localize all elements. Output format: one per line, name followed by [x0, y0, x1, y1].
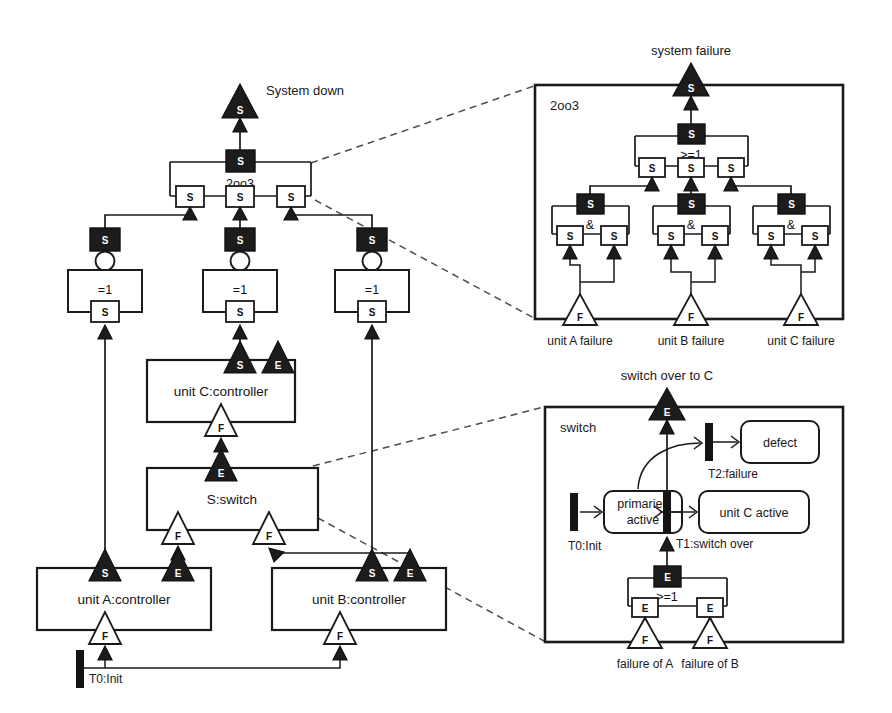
state-label: unit C active — [720, 506, 789, 520]
port-label: S — [237, 307, 244, 318]
port-label: F — [102, 631, 108, 642]
gate-symbol-label: =1 — [365, 283, 379, 297]
port-label: S — [728, 163, 735, 174]
basic-event-label: unit C failure — [767, 334, 835, 348]
gate-symbol-label: >=1 — [656, 590, 678, 604]
inverter-bubble-icon — [231, 252, 250, 271]
port-label: S — [788, 199, 795, 210]
component-unit-a: unit A:controller S E F — [37, 549, 211, 644]
port-label: E — [175, 568, 182, 579]
gate-symbol-label: & — [787, 218, 796, 232]
basic-event-label: unit A failure — [547, 334, 613, 348]
port-label: S — [369, 568, 376, 579]
wire-primaries-to-t2 — [638, 437, 702, 489]
port-label: S — [611, 231, 618, 242]
port-label: F — [707, 635, 713, 646]
port-label: S — [668, 231, 675, 242]
main-voter-gate-2oo3: S 2oo3 S S S — [170, 150, 311, 207]
port-label: E — [664, 407, 671, 418]
top-event-label: system failure — [651, 43, 731, 58]
inset-and-gate-2: S & S S — [653, 194, 730, 245]
wire-topgate-to-topevent — [233, 118, 247, 152]
port-label: F — [175, 531, 181, 542]
main-top-event: S System down — [222, 83, 344, 118]
transition-bar — [663, 492, 671, 532]
diagram-canvas: S System down S 2oo3 S S S — [0, 0, 892, 713]
port-label: F — [337, 631, 343, 642]
panel-title: switch — [560, 420, 596, 435]
basic-event-label: unit B failure — [658, 334, 725, 348]
port-label: S — [768, 231, 775, 242]
port-label: S — [102, 568, 109, 579]
port-label: S — [237, 235, 244, 246]
inset-or-gate: S >=1 S S S — [635, 124, 748, 177]
state-label-line1: primaries — [617, 497, 668, 511]
inset-basic-event-a: F unit A failure — [547, 294, 613, 348]
port-label: F — [798, 312, 804, 323]
basic-event-label: failure of A — [617, 657, 674, 671]
main-xor-gate-a: S =1 S — [68, 228, 142, 322]
main-xor-gate-c: S =1 S — [203, 228, 277, 322]
gate-symbol-label: =1 — [98, 283, 112, 297]
port-label: S — [587, 199, 594, 210]
inverter-bubble-icon — [363, 252, 382, 271]
wire-t2-to-defect — [713, 436, 739, 448]
port-label: S — [812, 231, 819, 242]
port-label: S — [688, 129, 695, 140]
port-label: E — [275, 360, 282, 371]
component-unit-c: unit C:controller S E F — [147, 341, 295, 436]
main-xor-gate-b: S =1 S — [335, 228, 409, 322]
wires-and-to-or — [590, 177, 791, 195]
switch-basic-event-b: F failure of B — [681, 618, 738, 671]
port-label: F — [688, 312, 694, 323]
port-label: S — [288, 192, 295, 203]
port-label: S — [688, 199, 695, 210]
switch-basic-event-a: F failure of A — [617, 618, 674, 671]
transition-label: T0:Init — [89, 672, 123, 686]
component-name: S:switch — [207, 492, 257, 507]
port-label: S — [688, 83, 695, 94]
transition-bar — [705, 423, 713, 461]
inset-and-gate-1: S & S S — [552, 194, 629, 245]
transition-label: T0:Init — [568, 539, 602, 553]
port-label: S — [237, 105, 244, 116]
transition-label: T1:switch over — [676, 537, 753, 551]
port-label: E — [707, 603, 714, 614]
port-label: S — [102, 235, 109, 246]
state-label: defect — [763, 436, 798, 450]
component-name: unit C:controller — [174, 384, 269, 399]
inset-switch-panel: switch switch over to C E T0:Init primar… — [545, 368, 843, 671]
wires-basicevents-to-and — [563, 245, 822, 300]
state-unit-c-active: unit C active — [699, 491, 809, 533]
wire-orgate-to-t1 — [660, 537, 674, 568]
transition-label: T2:failure — [708, 467, 758, 481]
transition-bar — [570, 493, 578, 531]
state-defect: defect — [741, 421, 819, 463]
component-name: unit A:controller — [77, 592, 171, 607]
out-event-label: switch over to C — [621, 368, 713, 383]
port-label: E — [407, 568, 414, 579]
port-label: S — [187, 192, 194, 203]
switch-or-gate: E >=1 E E — [628, 566, 727, 617]
wires-xor-to-voter — [105, 207, 372, 228]
port-label: F — [642, 635, 648, 646]
port-label: E — [218, 468, 225, 479]
port-label: S — [688, 163, 695, 174]
component-unit-b: unit B:controller S E F — [272, 549, 446, 644]
inset-basic-event-c: F unit C failure — [767, 294, 835, 348]
page-title: System down — [266, 83, 344, 98]
port-label: F — [577, 312, 583, 323]
gate-symbol-label: =1 — [233, 283, 247, 297]
port-label: F — [266, 531, 272, 542]
port-label: S — [237, 156, 244, 167]
port-label: S — [237, 192, 244, 203]
component-s-switch: S:switch E F F — [147, 449, 318, 544]
inverter-bubble-icon — [96, 252, 115, 271]
switch-transition-t0: T0:Init — [568, 493, 602, 553]
port-label: S — [369, 235, 376, 246]
inset-and-gate-3: S & S S — [753, 194, 830, 245]
inset-fault-tree-panel: 2oo3 system failure S S >=1 S S S — [535, 43, 843, 348]
port-label: E — [664, 572, 671, 583]
gate-symbol-label: & — [586, 218, 595, 232]
port-label: S — [102, 307, 109, 318]
